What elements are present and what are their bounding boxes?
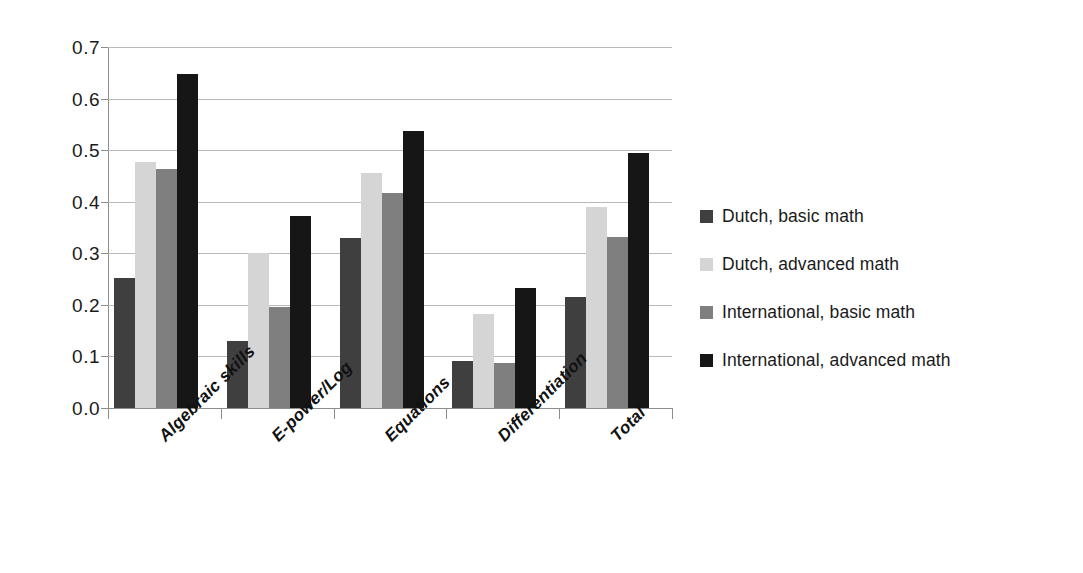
bar <box>515 288 536 408</box>
y-axis-tick-label: 0.2 <box>42 295 100 314</box>
legend-label: International, advanced math <box>722 350 951 371</box>
bar <box>494 363 515 408</box>
x-axis-tickmark <box>672 408 673 419</box>
bar <box>361 173 382 408</box>
x-axis-tickmark <box>559 408 560 419</box>
x-axis-tickmark <box>221 408 222 419</box>
legend-swatch-icon <box>700 306 713 319</box>
y-axis-tick-label: 0.5 <box>42 141 100 160</box>
bar <box>628 153 649 408</box>
bar-group <box>446 47 559 408</box>
bar <box>382 193 403 408</box>
x-axis-tickmark <box>446 408 447 419</box>
bar <box>607 237 628 408</box>
y-axis-labels: 0.70.60.50.40.30.20.10.0 <box>40 0 100 573</box>
legend-label: International, basic math <box>722 302 915 323</box>
y-axis-tick-label: 0.6 <box>42 89 100 108</box>
legend-swatch-icon <box>700 258 713 271</box>
y-axis-tick-label: 0.3 <box>42 244 100 263</box>
x-axis-tickmark <box>108 408 109 419</box>
bar <box>473 314 494 408</box>
legend-item: Dutch, advanced math <box>700 253 899 275</box>
bar <box>290 216 311 408</box>
bar <box>177 74 198 408</box>
bar <box>248 253 269 408</box>
plot-area <box>108 47 672 408</box>
bar <box>269 307 290 408</box>
y-axis-tick-label: 0.7 <box>42 38 100 57</box>
x-axis-tick-label: Total <box>607 403 650 446</box>
bar-group <box>108 47 221 408</box>
bar <box>586 207 607 408</box>
x-axis-tickmark <box>334 408 335 419</box>
bar <box>452 361 473 408</box>
bar <box>403 131 424 408</box>
y-axis-tick-label: 0.0 <box>42 399 100 418</box>
bar <box>135 162 156 408</box>
legend-swatch-icon <box>700 354 713 367</box>
legend-item: Dutch, basic math <box>700 205 864 227</box>
legend-swatch-icon <box>700 210 713 223</box>
legend-label: Dutch, basic math <box>722 206 864 227</box>
y-axis-tick-label: 0.1 <box>42 347 100 366</box>
y-axis-tick-label: 0.4 <box>42 192 100 211</box>
bar <box>114 278 135 408</box>
legend-item: International, advanced math <box>700 349 951 371</box>
bar-group <box>334 47 447 408</box>
bar-chart: 0.70.60.50.40.30.20.10.0 Algebraic skill… <box>0 0 1083 573</box>
bar <box>156 169 177 408</box>
legend-item: International, basic math <box>700 301 915 323</box>
legend-label: Dutch, advanced math <box>722 254 899 275</box>
